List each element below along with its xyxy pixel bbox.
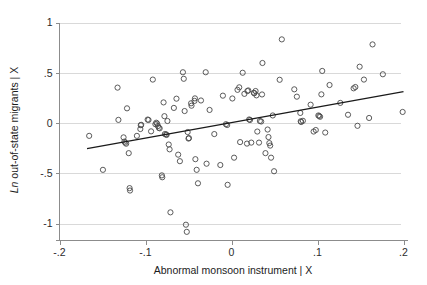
y-tick-label: -1 xyxy=(43,217,52,229)
data-point xyxy=(193,157,198,162)
data-point xyxy=(203,70,208,75)
data-point xyxy=(265,127,270,132)
x-tick-labels: -.2-.10.1.2 xyxy=(53,246,408,258)
data-point xyxy=(260,60,265,65)
data-point xyxy=(171,105,176,110)
data-point xyxy=(218,162,223,167)
x-tick-label: .1 xyxy=(313,246,322,258)
data-point xyxy=(176,152,181,157)
data-point xyxy=(327,82,332,87)
data-point xyxy=(134,133,139,138)
data-point xyxy=(181,76,186,81)
data-point xyxy=(255,129,260,134)
data-point xyxy=(212,131,217,136)
svg-text:Ln out-of-state migrants | X: Ln out-of-state migrants | X xyxy=(8,67,20,193)
plot-svg: 1.50-.5-1 -.2-.10.1.2 Abnormal monsoon i… xyxy=(0,0,427,285)
data-point xyxy=(292,87,297,92)
data-point xyxy=(184,229,189,234)
data-point xyxy=(167,147,172,152)
tick-marks xyxy=(56,24,405,245)
fit-line xyxy=(87,92,403,149)
data-point xyxy=(161,100,166,105)
x-axis-title: Abnormal monsoon instrument | X xyxy=(154,264,313,276)
data-point xyxy=(165,118,170,123)
data-point xyxy=(294,94,299,99)
data-point xyxy=(380,72,385,77)
data-point xyxy=(357,64,362,69)
data-point xyxy=(370,42,375,47)
data-point xyxy=(177,159,182,164)
data-point xyxy=(195,181,200,186)
y-tick-label: 1 xyxy=(47,16,53,28)
data-point xyxy=(126,151,131,156)
data-point xyxy=(361,77,366,82)
data-point xyxy=(225,182,230,187)
data-point xyxy=(400,109,405,114)
data-point xyxy=(115,85,120,90)
data-point xyxy=(166,142,171,147)
data-point xyxy=(319,92,324,97)
data-point xyxy=(87,133,92,138)
data-point xyxy=(100,167,105,172)
data-point xyxy=(268,155,273,160)
data-point xyxy=(174,96,179,101)
data-point xyxy=(266,134,271,139)
data-point xyxy=(180,70,185,75)
data-point xyxy=(256,140,261,145)
data-point xyxy=(308,102,313,107)
y-axis-title: Ln out-of-state migrants | X xyxy=(8,67,20,193)
data-point xyxy=(220,93,225,98)
data-point xyxy=(148,129,153,134)
x-tick-label: .2 xyxy=(399,246,408,258)
data-point xyxy=(238,139,243,144)
y-tick-label: -.5 xyxy=(40,167,52,179)
data-point xyxy=(230,96,235,101)
x-tick-label: 0 xyxy=(229,246,235,258)
data-point xyxy=(323,130,328,135)
data-point xyxy=(116,117,121,122)
data-point xyxy=(345,112,350,117)
regression-line xyxy=(87,92,403,149)
data-point xyxy=(168,210,173,215)
y-tick-label: 0 xyxy=(47,117,53,129)
data-point xyxy=(198,98,203,103)
data-point xyxy=(263,151,268,156)
data-point xyxy=(182,108,187,113)
data-point xyxy=(279,37,284,42)
y-tick-label: .5 xyxy=(44,67,53,79)
data-point xyxy=(320,68,325,73)
data-point xyxy=(124,106,129,111)
data-point xyxy=(207,107,212,112)
x-tick-label: -.1 xyxy=(139,246,151,258)
data-point xyxy=(204,161,209,166)
x-tick-label: -.2 xyxy=(53,246,65,258)
data-point xyxy=(277,77,282,82)
data-point xyxy=(240,70,245,75)
data-point xyxy=(259,92,264,97)
data-point xyxy=(367,115,372,120)
data-point xyxy=(231,155,236,160)
axes xyxy=(56,23,408,241)
data-point xyxy=(162,114,167,119)
data-point xyxy=(194,167,199,172)
y-tick-labels: 1.50-.5-1 xyxy=(40,16,52,229)
scatter-chart: 1.50-.5-1 -.2-.10.1.2 Abnormal monsoon i… xyxy=(0,0,427,285)
data-points xyxy=(87,37,406,235)
data-point xyxy=(150,77,155,82)
